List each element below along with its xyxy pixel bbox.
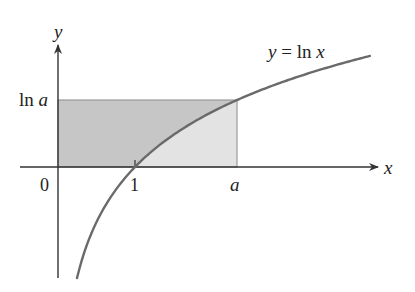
graph-canvas: y x 0 1 a ln a y = ln x <box>0 0 415 292</box>
tick-label-one: 1 <box>130 175 139 195</box>
y-axis-label: y <box>52 21 63 42</box>
x-axis-label: x <box>383 157 393 178</box>
curve-label: y = ln x <box>266 41 325 62</box>
tick-label-a: a <box>230 174 240 195</box>
ln-graph-figure: y x 0 1 a ln a y = ln x <box>0 0 415 292</box>
origin-label: 0 <box>40 175 49 195</box>
tick-label-ln-a: ln a <box>19 89 48 110</box>
